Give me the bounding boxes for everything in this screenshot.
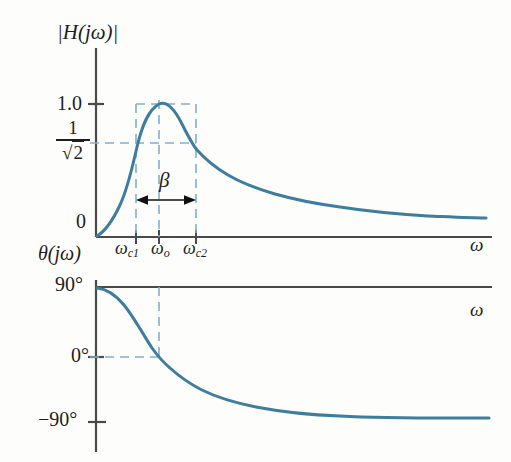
bandwidth-label-beta: β: [159, 170, 169, 191]
bandwidth-arrow: [136, 195, 196, 205]
magnitude-xtick-label-wc1: ωc1: [115, 239, 139, 259]
radicand: 2: [72, 141, 84, 163]
magnitude-xaxis-label-omega: ω: [470, 235, 483, 254]
omega-glyph: ω: [115, 238, 128, 258]
magnitude-panel: [88, 48, 492, 244]
omega-subscript: c2: [196, 246, 207, 260]
omega-subscript: c1: [128, 246, 139, 260]
phase-axis-title: θ(jω): [38, 243, 81, 263]
phase-ytick-label-plus90: 90°: [55, 274, 83, 294]
magnitude-ytick-label-one: 1.0: [57, 93, 82, 113]
omega-glyph: ω: [183, 238, 196, 258]
radical-sign: √: [62, 142, 72, 163]
magnitude-xtick-label-wc2: ωc2: [183, 239, 207, 259]
phase-xaxis-label-omega: ω: [470, 300, 483, 319]
phase-panel: [88, 280, 492, 452]
fraction-denominator: √2: [56, 142, 90, 163]
phase-curve: [97, 288, 489, 418]
magnitude-curve: [97, 103, 486, 236]
omega-glyph: ω: [151, 238, 164, 258]
magnitude-axis-title: |H(jω)|: [57, 22, 118, 43]
magnitude-ytick-label-zero: 0: [76, 211, 86, 231]
figure-container: |H(jω)| θ(jω) 1.0 1 √2 0 ωc1 ωo ωc2 ω ω …: [0, 0, 511, 462]
phase-ytick-label-minus90: −90°: [38, 409, 77, 429]
fraction-numerator: 1: [56, 118, 90, 137]
omega-subscript: o: [164, 246, 170, 260]
magnitude-ytick-label-inv-sqrt-two: 1 √2: [56, 118, 90, 163]
magnitude-xtick-label-wo: ωo: [151, 239, 170, 259]
phase-ytick-label-zero: 0°: [71, 345, 89, 365]
